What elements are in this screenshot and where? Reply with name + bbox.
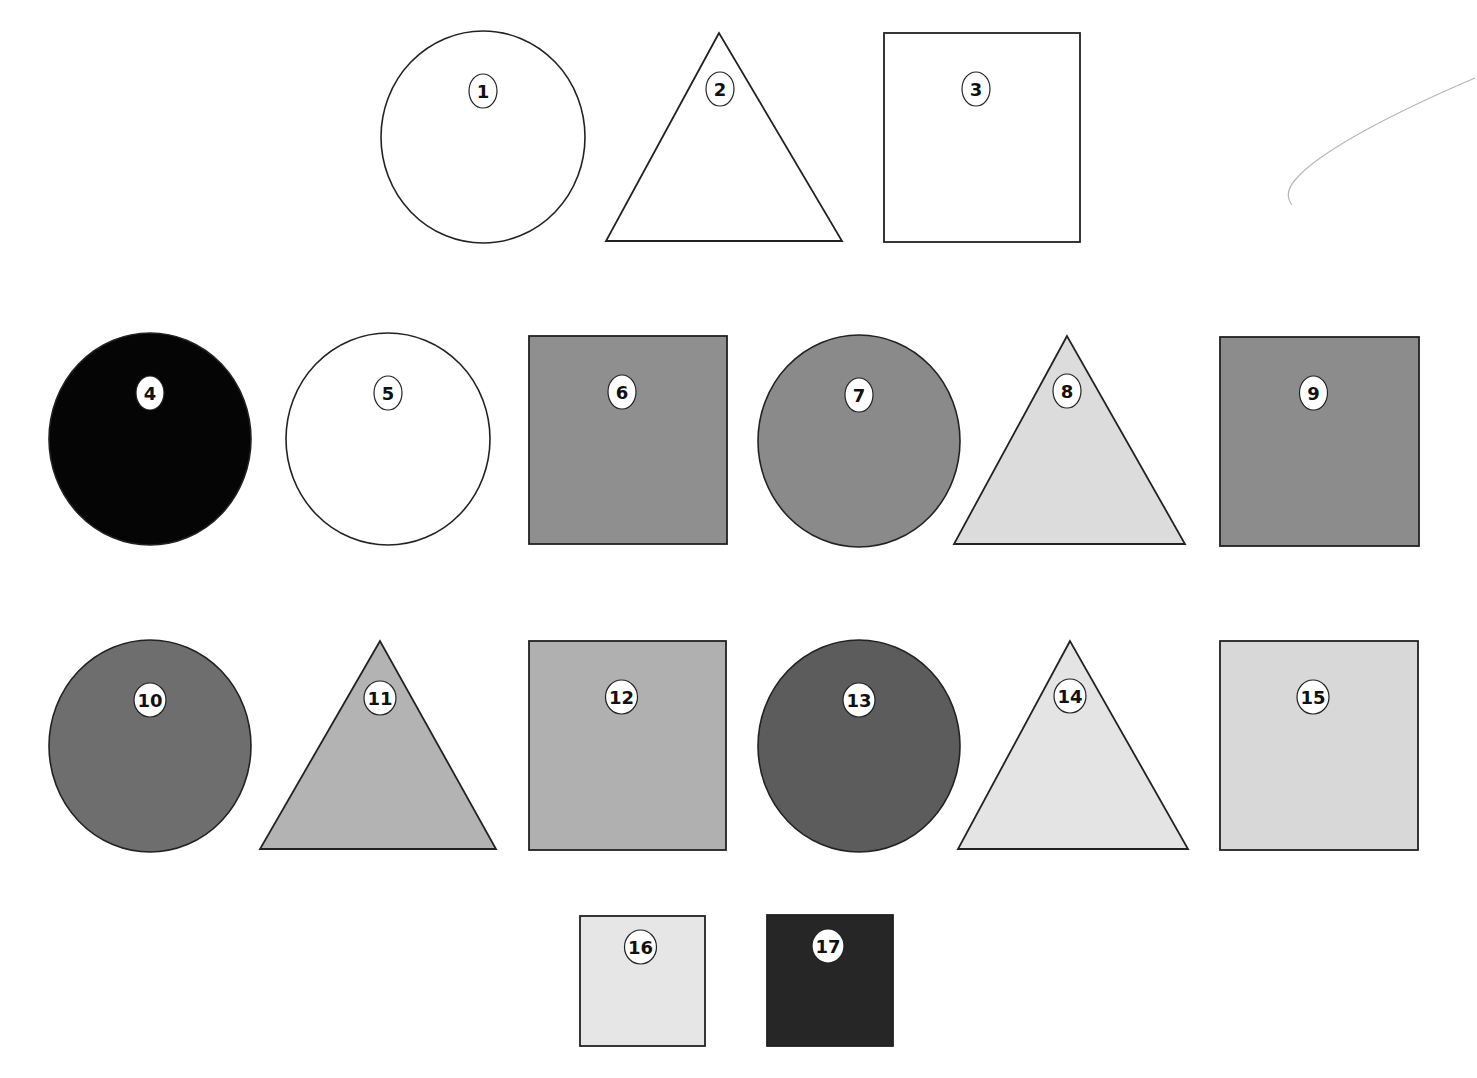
shape-square-16: 16 bbox=[580, 916, 705, 1046]
shape-circle-7: 7 bbox=[758, 335, 960, 547]
circle-shape bbox=[286, 333, 490, 545]
triangle-shape bbox=[954, 336, 1185, 544]
square-shape bbox=[529, 336, 727, 544]
shape-number-label: 14 bbox=[1057, 686, 1082, 707]
shape-square-12: 12 bbox=[529, 641, 726, 850]
shape-number-label: 15 bbox=[1300, 687, 1325, 708]
shape-square-17: 17 bbox=[767, 915, 893, 1046]
shape-triangle-2: 2 bbox=[606, 33, 842, 241]
circle-shape bbox=[381, 31, 585, 243]
shape-circle-4: 4 bbox=[49, 333, 251, 545]
triangle-shape bbox=[606, 33, 842, 241]
shape-number-label: 12 bbox=[609, 687, 634, 708]
shape-circle-1: 1 bbox=[381, 31, 585, 243]
shape-number-label: 17 bbox=[815, 936, 840, 957]
shape-number-label: 1 bbox=[477, 81, 490, 102]
triangle-shape bbox=[958, 641, 1188, 849]
shapes-figure: 1234567891011121314151617 bbox=[0, 0, 1477, 1078]
shape-triangle-8: 8 bbox=[954, 336, 1185, 544]
shape-number-label: 4 bbox=[144, 383, 157, 404]
shape-square-15: 15 bbox=[1220, 641, 1418, 850]
triangle-shape bbox=[260, 641, 496, 849]
square-shape bbox=[1220, 641, 1418, 850]
circle-shape bbox=[49, 640, 251, 852]
shape-square-3: 3 bbox=[884, 33, 1080, 242]
shape-triangle-14: 14 bbox=[958, 641, 1188, 849]
shape-number-label: 5 bbox=[382, 383, 395, 404]
shape-triangle-11: 11 bbox=[260, 641, 496, 849]
square-shape bbox=[529, 641, 726, 850]
shape-number-label: 6 bbox=[616, 382, 629, 403]
shape-number-label: 9 bbox=[1307, 383, 1320, 404]
shape-square-6: 6 bbox=[529, 336, 727, 544]
shape-number-label: 2 bbox=[714, 79, 727, 100]
shape-circle-5: 5 bbox=[286, 333, 490, 545]
shape-number-label: 3 bbox=[970, 79, 983, 100]
shape-circle-10: 10 bbox=[49, 640, 251, 852]
shape-square-9: 9 bbox=[1220, 337, 1419, 546]
shape-circle-13: 13 bbox=[758, 640, 960, 852]
shape-number-label: 10 bbox=[137, 690, 162, 711]
shape-number-label: 11 bbox=[367, 688, 392, 709]
shape-number-label: 7 bbox=[853, 385, 866, 406]
shape-number-label: 8 bbox=[1061, 381, 1074, 402]
shape-number-label: 13 bbox=[846, 690, 871, 711]
shape-layer: 1234567891011121314151617 bbox=[49, 31, 1419, 1046]
circle-shape bbox=[49, 333, 251, 545]
shape-number-label: 16 bbox=[628, 937, 653, 958]
circle-shape bbox=[758, 335, 960, 547]
circle-shape bbox=[758, 640, 960, 852]
pencil-stroke bbox=[1288, 78, 1475, 205]
square-shape bbox=[884, 33, 1080, 242]
square-shape bbox=[1220, 337, 1419, 546]
